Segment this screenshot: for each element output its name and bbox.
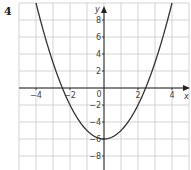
y-axis-label: y — [94, 5, 100, 14]
y-tick-label: −2 — [89, 101, 101, 110]
x-axis-label: x — [183, 92, 189, 101]
y-tick-label: 6 — [96, 33, 101, 42]
parabola-chart: xy−4−22408642−2−4−6−8 — [0, 0, 191, 170]
y-tick-label: 4 — [96, 50, 101, 59]
y-tick-label: 8 — [96, 16, 101, 25]
x-tick-label: 2 — [135, 91, 140, 100]
y-tick-label: −4 — [89, 118, 101, 127]
y-tick-label: −8 — [89, 152, 101, 161]
x-tick-label: 4 — [169, 91, 174, 100]
y-axis-arrow-icon — [101, 6, 107, 13]
origin-label: 0 — [96, 90, 101, 99]
y-tick-label: 2 — [96, 67, 101, 76]
x-tick-label: −4 — [30, 91, 42, 100]
